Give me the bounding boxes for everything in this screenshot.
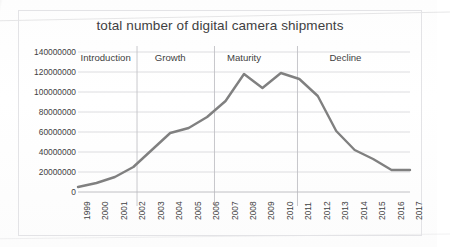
stage-label: Maturity	[227, 52, 261, 63]
stage-label: Growth	[155, 52, 186, 63]
stage-label: Introduction	[81, 52, 131, 63]
stage-label: Decline	[329, 52, 361, 63]
